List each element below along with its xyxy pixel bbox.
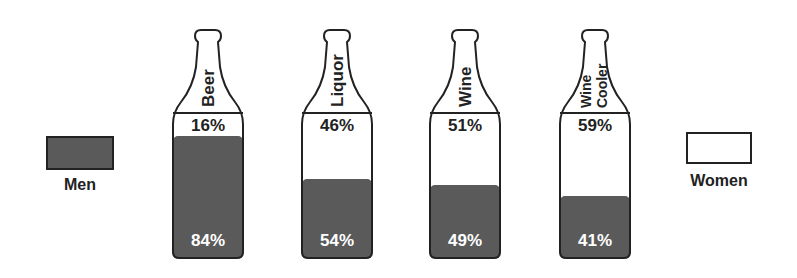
svg-text:Wine: Wine [456,67,475,107]
bottle-beer: Beer 16% 84% [173,30,243,258]
bottle-wine-cooler: Wine Cooler 59% 41% [560,30,630,258]
svg-text:49%: 49% [448,231,482,250]
svg-text:Liquor: Liquor [328,54,347,107]
svg-text:54%: 54% [320,231,354,250]
bottle-liquor: Liquor 46% 54% [302,30,372,258]
svg-text:Beer: Beer [199,69,218,107]
svg-text:16%: 16% [191,116,225,135]
svg-text:59%: 59% [578,116,612,135]
bottle-chart: Beer 16% 84% Liquor 46% 54% Wine 51% 49%… [0,0,797,278]
bottle-wine: Wine 51% 49% [430,30,500,258]
svg-text:46%: 46% [320,116,354,135]
svg-text:Cooler: Cooler [594,63,610,108]
svg-text:84%: 84% [191,231,225,250]
svg-text:41%: 41% [578,231,612,250]
svg-text:Wine: Wine [578,74,594,108]
svg-text:51%: 51% [448,116,482,135]
